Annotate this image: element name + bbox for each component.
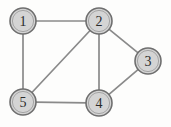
edges-layer — [23, 21, 139, 103]
graph-node-3[interactable]: 3 — [135, 48, 161, 74]
edge-4-5 — [35, 102, 87, 103]
node-label-5: 5 — [20, 95, 27, 110]
node-label-1: 1 — [20, 14, 27, 29]
graph-node-1[interactable]: 1 — [10, 8, 36, 34]
nodes-layer: 12345 — [10, 8, 161, 116]
edge-3-4 — [108, 69, 139, 95]
graph-node-5[interactable]: 5 — [10, 89, 36, 115]
node-label-2: 2 — [96, 14, 103, 29]
graph-canvas: 12345 — [0, 0, 171, 127]
node-label-3: 3 — [145, 54, 152, 69]
edge-2-5 — [31, 30, 91, 94]
graph-figure: 12345 — [0, 0, 171, 127]
graph-node-4[interactable]: 4 — [86, 90, 112, 116]
edge-2-3 — [108, 29, 138, 54]
node-label-4: 4 — [96, 96, 103, 111]
graph-node-2[interactable]: 2 — [86, 8, 112, 34]
